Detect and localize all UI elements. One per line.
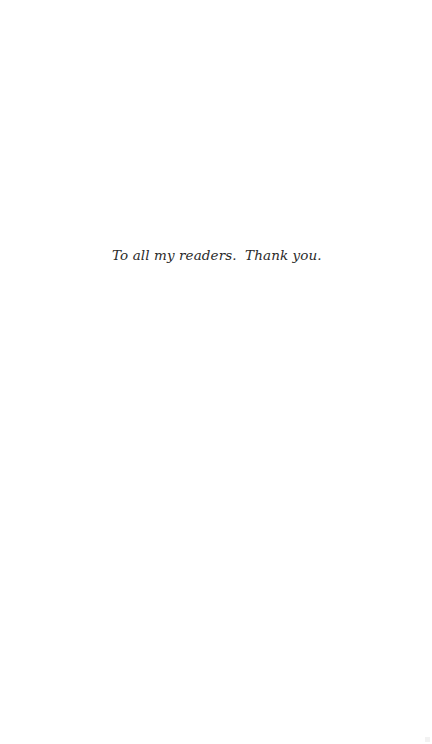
dedication-sentence-2: Thank you.: [245, 247, 322, 263]
dedication-text: To all my readers. Thank you.: [112, 246, 322, 264]
book-page: To all my readers. Thank you.: [0, 0, 432, 744]
dedication-sentence-1: To all my readers.: [112, 247, 237, 263]
page-corner-mark: [425, 737, 430, 742]
